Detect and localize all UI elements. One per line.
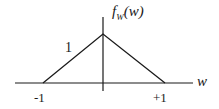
y-axis-label: fW(w) <box>112 4 144 22</box>
tick-label-left: -1 <box>34 91 45 104</box>
peak-label: 1 <box>65 41 72 55</box>
triangular-pdf-plot <box>0 0 219 109</box>
x-axis-label: w <box>197 74 207 89</box>
triangle-curve <box>43 34 165 83</box>
tick-label-right: +1 <box>153 91 167 104</box>
